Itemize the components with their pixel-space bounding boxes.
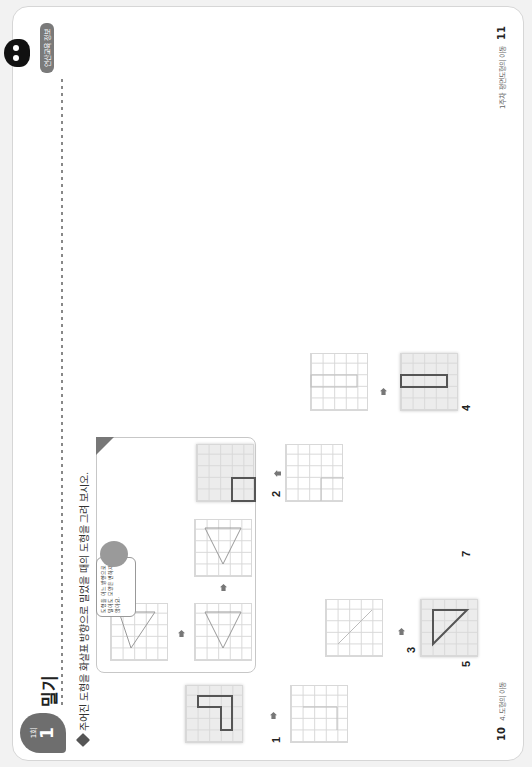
- mascot-icon: [4, 39, 30, 67]
- footer-left-text: 4.도형의 이동: [499, 682, 507, 721]
- instruction: 주어진 도형을 화살표 방향으로 밀었을 때의 도형을 그려 보시오.: [76, 472, 91, 745]
- lesson-badge: 1회 1: [20, 713, 66, 753]
- instruction-text: 주어진 도형을 화살표 방향으로 밀었을 때의 도형을 그려 보시오.: [79, 472, 90, 731]
- page-number-left: 10: [496, 727, 507, 741]
- problem-3-grid-answer: [420, 599, 478, 657]
- problem-4-grid: [400, 353, 458, 411]
- problem-7-number: 7: [460, 551, 472, 557]
- problem-4-number: 4: [460, 405, 472, 411]
- pencil-icon: [76, 733, 90, 747]
- textbook-spread: 1회 1 밀기 연산교육 정보 주어진 도형을 화살표 방향으로 밀었을 때의 …: [0, 0, 532, 767]
- page-number-right: 11: [496, 26, 507, 40]
- bunny-mascot-icon: [100, 541, 128, 567]
- problem-3-number: 3: [405, 647, 417, 653]
- problem-2-number: 2: [270, 491, 282, 497]
- example-grid-moved-right: [194, 519, 252, 577]
- footer-right-text: 1주차 평면도형의 이동: [499, 46, 507, 109]
- lesson-badge-number: 1: [37, 727, 57, 739]
- example-grid-moved-down: [194, 603, 252, 661]
- problem-4-grid-moved: [310, 353, 368, 411]
- page-fold-icon: [96, 437, 114, 455]
- problem-5-number: 5: [460, 661, 472, 667]
- problem-1-grid-original: [290, 685, 348, 743]
- page-title: 밀기: [36, 675, 61, 707]
- problem-2-grid-original: [285, 444, 343, 502]
- problem-3-grid-original: [325, 599, 383, 657]
- footer-right: 1주차 평면도형의 이동 11: [496, 22, 507, 109]
- problem-1-number: 1: [270, 737, 282, 743]
- footer-left: 10 4.도형의 이동: [496, 682, 507, 745]
- dotted-divider: [60, 75, 64, 707]
- problem-2-grid-answer: [196, 444, 254, 502]
- section-tag: 연산교육 정보: [40, 23, 54, 73]
- problem-1-grid-answer: [185, 685, 243, 743]
